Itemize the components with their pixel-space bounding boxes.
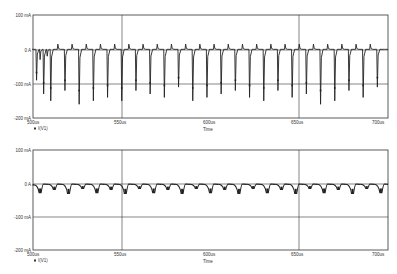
gridlines (33, 150, 388, 250)
legend-marker (34, 260, 36, 262)
bottom-chart: 100 mA 0 A -100 mA -200 mA 500us 550us 6… (0, 140, 397, 274)
x-tick-550: 550us (114, 120, 127, 125)
y-tick-0: 0 A (24, 182, 31, 187)
y-tick-0: 0 A (24, 48, 31, 53)
x-tick-600: 600us (203, 252, 216, 257)
legend-marker (34, 128, 36, 130)
x-axis-label: Time (203, 259, 213, 264)
x-tick-500: 500us (27, 252, 40, 257)
x-tick-650: 650us (291, 120, 304, 125)
x-tick-600: 600us (203, 120, 216, 125)
x-tick-650: 650us (291, 252, 304, 257)
x-axis-label: Time (203, 127, 213, 132)
legend-label: I(V1) (38, 258, 48, 263)
y-tick-neg100: -100 mA (14, 82, 31, 87)
y-tick-100: 100 mA (15, 13, 31, 18)
x-tick-700: 700us (372, 120, 385, 125)
top-chart-svg: 100 mA 0 A -100 mA -200 mA 500us 550us 6… (0, 0, 397, 140)
legend-label: I(V1) (38, 126, 48, 131)
y-tick-100: 100 mA (15, 148, 31, 153)
bottom-chart-svg: 100 mA 0 A -100 mA -200 mA 500us 550us 6… (0, 140, 397, 274)
top-chart: 100 mA 0 A -100 mA -200 mA 500us 550us 6… (0, 0, 397, 140)
plot-frame (33, 150, 388, 250)
trace-path (32, 44, 388, 104)
x-tick-500: 500us (27, 120, 40, 125)
waveform-trace (32, 44, 388, 104)
x-tick-700: 700us (372, 252, 385, 257)
y-tick-neg100: -100 mA (14, 215, 31, 220)
x-tick-550: 550us (114, 252, 127, 257)
waveform-trace (33, 184, 388, 193)
